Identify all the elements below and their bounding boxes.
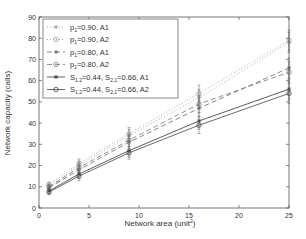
y-tick-label: 0	[32, 205, 36, 212]
y-tick-label: 90	[28, 14, 36, 21]
legend-entry: S1,2=0.44, S2,1=0.66, A1	[70, 73, 149, 83]
x-tick-label: 20	[235, 212, 243, 219]
x-axis-label: Network area (unit2)	[125, 218, 196, 228]
star-marker	[54, 50, 58, 54]
x-tick-label: 10	[135, 212, 143, 219]
x-tick-label: 0	[37, 212, 41, 219]
y-tick-label: 50	[28, 98, 36, 105]
legend-entry: S1,2=0.44, S2,1=0.66, A2	[70, 85, 149, 95]
y-tick-label: 70	[28, 56, 36, 63]
legend: p1=0.90, A1p1=0.90, A2p1=0.80, A1p1=0.80…	[43, 19, 178, 98]
y-tick-label: 10	[28, 183, 36, 190]
y-tick-label: 20	[28, 162, 36, 169]
x-tick-label: 5	[87, 212, 91, 219]
chart: 05101520250102030405060708090 p1=0.90, A…	[0, 0, 306, 239]
star-marker	[54, 25, 58, 29]
series-line	[47, 83, 291, 194]
legend-box	[43, 19, 178, 98]
y-tick-label: 60	[28, 77, 36, 84]
y-axis-label: Network capacity (calls)	[3, 70, 12, 155]
y-tick-label: 30	[28, 141, 36, 148]
star-marker	[54, 75, 58, 79]
y-tick-label: 40	[28, 120, 36, 127]
y-tick-label: 80	[28, 35, 36, 42]
x-tick-label: 25	[285, 212, 293, 219]
